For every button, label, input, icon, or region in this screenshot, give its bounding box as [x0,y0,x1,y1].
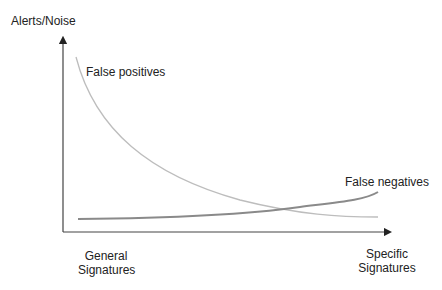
general-line1: General [78,249,134,263]
y-axis-label: Alerts/Noise [11,14,76,28]
specific-signatures-label: Specific Signatures [352,247,422,275]
specific-line2: Signatures [352,261,422,275]
specific-line1: Specific [352,247,422,261]
false-negatives-label: False negatives [345,175,429,189]
false-positives-label: False positives [86,65,165,79]
general-line2: Signatures [78,263,134,277]
general-signatures-label: General Signatures [78,249,134,277]
false-positives-curve [76,57,378,217]
